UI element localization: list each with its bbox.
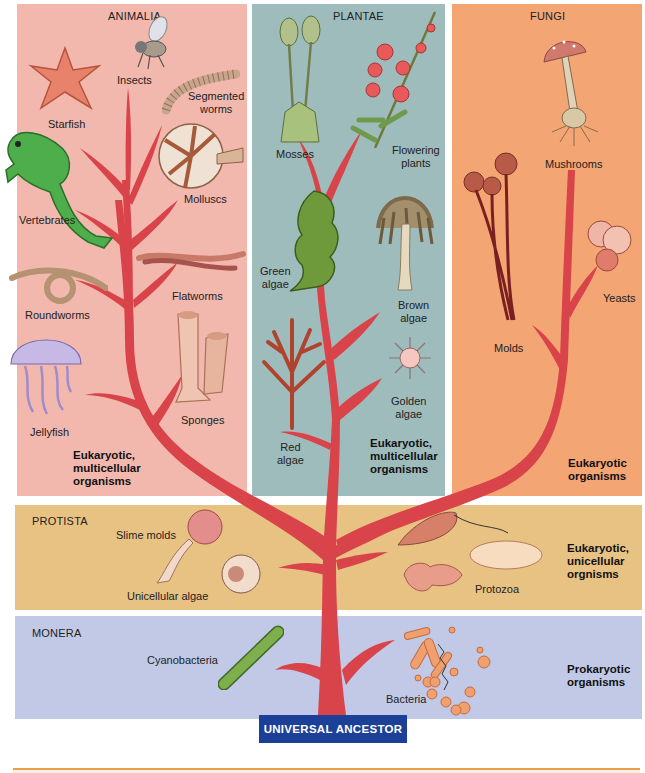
frog-vertebrate-icon xyxy=(4,126,116,251)
label-segmented-worms: Segmented worms xyxy=(188,90,244,116)
description-fungi: Eukaryotic organisms xyxy=(568,457,627,483)
red-algae-icon xyxy=(254,312,334,432)
label-vertebrates: Vertebrates xyxy=(19,214,75,227)
label-red-algae: Red algae xyxy=(277,441,304,467)
unicellular-algae-icon xyxy=(218,550,264,600)
kingdom-title-protista: PROTISTA xyxy=(32,515,88,527)
label-green-algae: Green algae xyxy=(260,265,291,291)
label-jellyfish: Jellyfish xyxy=(30,426,69,439)
label-cyanobacteria: Cyanobacteria xyxy=(147,654,218,667)
insect-icon xyxy=(128,15,174,70)
label-slime-molds: Slime molds xyxy=(116,529,176,542)
label-golden-algae: Golden algae xyxy=(391,395,426,421)
slime-mold-icon xyxy=(155,507,227,585)
label-flowering-plants: Flowering plants xyxy=(392,144,440,170)
jellyfish-icon xyxy=(5,322,87,417)
yeast-icon xyxy=(585,218,637,274)
starfish-icon xyxy=(25,42,105,114)
description-animalia: Eukaryotic, multicellular organisms xyxy=(73,449,141,488)
roundworm-icon xyxy=(8,262,108,308)
label-protozoa: Protozoa xyxy=(475,583,519,596)
label-molds: Molds xyxy=(494,342,523,355)
mollusc-icon xyxy=(155,118,247,193)
label-starfish: Starfish xyxy=(48,118,85,131)
cyanobacteria-icon xyxy=(218,624,284,690)
label-insects: Insects xyxy=(117,74,152,87)
label-mosses: Mosses xyxy=(276,148,314,161)
label-sponges: Sponges xyxy=(181,414,224,427)
label-bacteria: Bacteria xyxy=(386,693,426,706)
sponge-icon xyxy=(172,308,234,408)
label-flatworms: Flatworms xyxy=(172,290,223,303)
flowering-plant-icon xyxy=(345,8,445,148)
label-unicellular-algae: Unicellular algae xyxy=(127,590,208,603)
mold-icon xyxy=(462,150,530,330)
description-protista: Eukaryotic, unicellular orgnisms xyxy=(567,542,629,581)
brown-algae-icon xyxy=(372,178,438,296)
golden-algae-icon xyxy=(387,335,433,381)
label-brown-algae: Brown algae xyxy=(398,299,429,325)
moss-icon xyxy=(275,12,325,147)
label-mushrooms: Mushrooms xyxy=(545,158,602,171)
flatworm-icon xyxy=(135,246,247,276)
universal-ancestor-root: UNIVERSAL ANCESTOR xyxy=(259,715,407,743)
label-yeasts: Yeasts xyxy=(603,292,636,305)
label-roundworms: Roundworms xyxy=(25,309,90,322)
description-monera: Prokaryotic organisms xyxy=(567,663,630,689)
green-algae-icon xyxy=(286,187,346,292)
kingdom-title-fungi: FUNGI xyxy=(530,10,565,22)
label-molluscs: Molluscs xyxy=(184,193,227,206)
kingdom-title-monera: MONERA xyxy=(32,627,81,639)
mushroom-icon xyxy=(540,32,600,150)
description-plantae: Eukaryotic, multicellular organisms xyxy=(370,437,438,476)
